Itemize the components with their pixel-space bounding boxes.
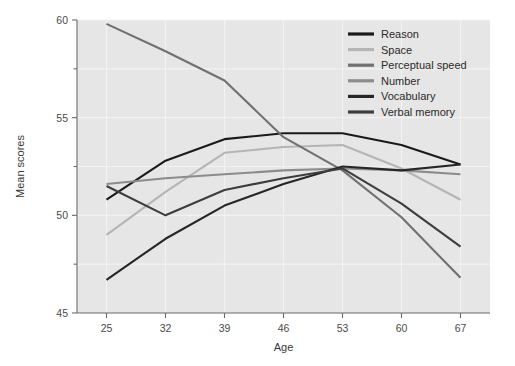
- x-tick-label: 60: [396, 322, 408, 334]
- y-axis-ticks: 45505560: [56, 14, 77, 319]
- legend-label: Perceptual speed: [381, 59, 467, 71]
- chart-figure: 4550556025323946536067AgeMean scoresReas…: [0, 0, 515, 366]
- y-tick-label: 50: [56, 209, 68, 221]
- x-tick-label: 53: [337, 322, 349, 334]
- y-axis-title: Mean scores: [14, 135, 26, 198]
- x-tick-label: 32: [160, 322, 172, 334]
- x-tick-label: 46: [278, 322, 290, 334]
- legend-label: Vocabulary: [381, 90, 436, 102]
- y-tick-label: 55: [56, 112, 68, 124]
- x-axis-ticks: 25323946536067: [101, 313, 467, 334]
- line-chart: 4550556025323946536067AgeMean scoresReas…: [0, 0, 515, 366]
- x-tick-label: 39: [219, 322, 231, 334]
- x-axis-title: Age: [274, 341, 294, 353]
- legend-label: Space: [381, 44, 412, 56]
- x-tick-label: 67: [455, 322, 467, 334]
- y-tick-label: 45: [56, 307, 68, 319]
- y-tick-label: 60: [56, 14, 68, 26]
- legend-label: Verbal memory: [381, 106, 455, 118]
- legend-label: Reason: [381, 28, 419, 40]
- legend-label: Number: [381, 75, 420, 87]
- x-tick-label: 25: [101, 322, 113, 334]
